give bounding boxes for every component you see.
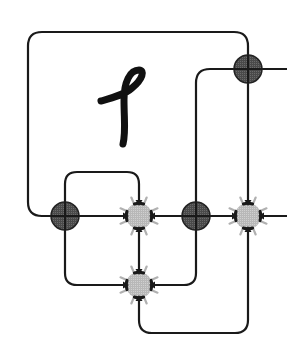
dark-node-icon	[182, 202, 210, 230]
cursive-l-glyph	[101, 70, 142, 144]
dark-node-icon	[51, 202, 79, 230]
starburst-node-icon	[121, 267, 158, 304]
starburst-node-icon	[121, 198, 158, 235]
wire-bottom-loop	[139, 216, 248, 333]
wire-top-right	[196, 69, 287, 216]
dark-node-icon	[234, 55, 262, 83]
starburst-node-icon	[230, 198, 267, 235]
string-diagram	[0, 0, 287, 358]
wire-left-to-bottom	[65, 216, 139, 285]
